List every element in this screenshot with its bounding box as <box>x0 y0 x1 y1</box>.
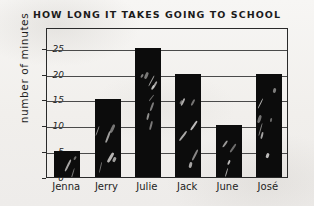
bar-chart-screenshot: HOW LONG IT TAKES GOING TO SCHOOL number… <box>0 0 314 206</box>
bar-jenna <box>54 151 80 177</box>
chart-title: HOW LONG IT TAKES GOING TO SCHOOL <box>0 9 314 20</box>
gridline-15 <box>47 101 287 102</box>
x-tick-label-jack: Jack <box>167 181 207 192</box>
gridline-10 <box>47 127 287 128</box>
bar-chalk-texture <box>95 99 121 177</box>
bar-june <box>216 125 242 177</box>
x-tick-label-jos: José <box>248 181 288 192</box>
x-tick-label-jerry: Jerry <box>86 181 126 192</box>
x-tick-label-june: June <box>207 181 247 192</box>
x-tick-label-jenna: Jenna <box>46 181 86 192</box>
plot-area <box>46 28 288 178</box>
y-tick-mark-0 <box>42 178 46 179</box>
bar-chalk-texture <box>175 74 201 177</box>
gridline-5 <box>47 153 287 154</box>
bar-jos <box>256 74 282 177</box>
x-tick-label-julie: Julie <box>127 181 167 192</box>
bar-chalk-texture <box>135 48 161 177</box>
gridline-20 <box>47 76 287 77</box>
bar-chalk-texture <box>54 151 80 177</box>
bar-chalk-texture <box>256 74 282 177</box>
bar-jerry <box>95 99 121 177</box>
bar-jack <box>175 74 201 177</box>
bar-julie <box>135 48 161 177</box>
gridline-25 <box>47 50 287 51</box>
y-axis-title: number of minutes <box>18 0 30 138</box>
bar-chalk-texture <box>216 125 242 177</box>
